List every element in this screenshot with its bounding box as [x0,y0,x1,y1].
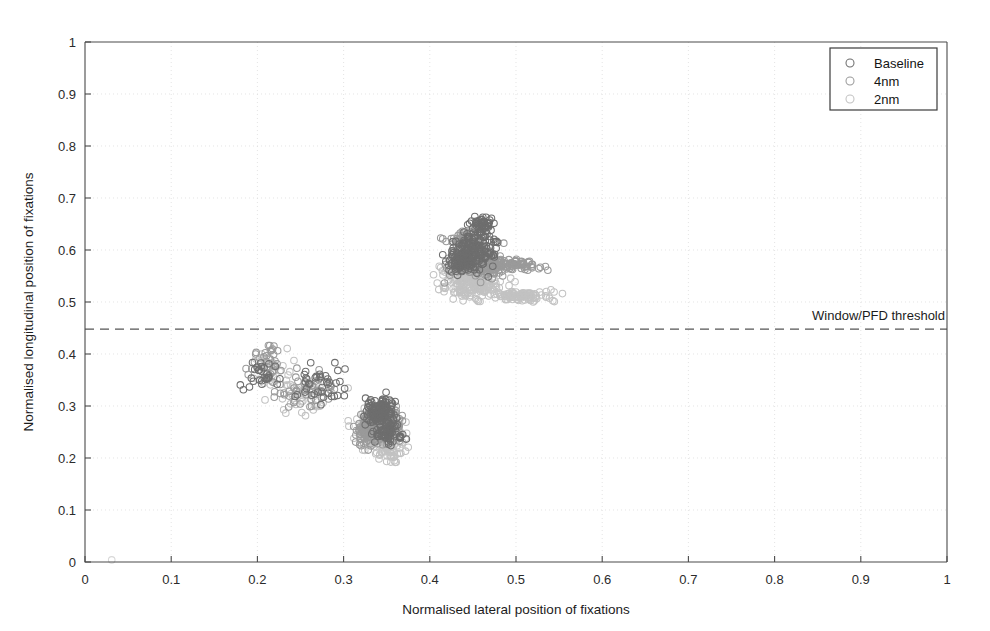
x-tick-label: 0.4 [421,572,439,587]
series-points-2nm [250,253,566,465]
x-tick-label: 1 [943,572,950,587]
data-point [439,251,446,258]
data-point [559,290,566,297]
data-point [307,359,314,366]
scatter-plot-figure: Window/PFD threshold00.10.20.30.40.50.60… [0,0,990,631]
x-tick-label: 0.7 [679,572,697,587]
y-axis-title: Normalised longitudinal position of fixa… [21,172,36,431]
data-point [332,359,339,366]
x-tick-label: 0.3 [335,572,353,587]
y-tick-label: 1 [69,35,76,50]
y-tick-label: 0.6 [58,243,76,258]
x-tick-label: 0.6 [593,572,611,587]
legend-label-4nm: 4nm [874,74,899,89]
data-point [430,271,437,278]
y-tick-label: 0.1 [58,503,76,518]
y-tick-label: 0.9 [58,87,76,102]
data-point [240,386,247,393]
x-tick-label: 0.9 [852,572,870,587]
data-point [335,367,342,374]
x-tick-label: 0.8 [766,572,784,587]
data-point [507,275,514,282]
data-point [464,221,471,228]
data-point [434,280,441,287]
data-point [262,397,269,404]
data-point [284,345,291,352]
legend-label-baseline: Baseline [874,56,924,71]
y-tick-label: 0.5 [58,295,76,310]
data-point [342,366,349,373]
data-point [341,392,348,399]
data-point [450,296,457,303]
y-tick-label: 0.4 [58,347,76,362]
x-tick-label: 0.2 [248,572,266,587]
data-point [337,378,344,385]
x-tick-label: 0 [81,572,88,587]
y-tick-label: 0.2 [58,451,76,466]
y-tick-label: 0 [69,555,76,570]
y-tick-label: 0.8 [58,139,76,154]
data-point [291,357,298,364]
data-point [436,263,443,270]
x-tick-label: 0.5 [507,572,525,587]
x-axis-title: Normalised lateral position of fixations [402,602,630,617]
x-tick-label: 0.1 [162,572,180,587]
legend-label-2nm: 2nm [874,92,899,107]
y-tick-label: 0.3 [58,399,76,414]
data-point [383,389,390,396]
data-point [512,278,519,285]
data-point [237,382,244,389]
window-pfd-threshold-label: Window/PFD threshold [812,308,945,323]
series-points-baseline [237,213,501,449]
data-point [294,365,301,372]
data-point [535,265,542,272]
chart-canvas: Window/PFD threshold00.10.20.30.40.50.60… [0,0,990,631]
y-tick-label: 0.7 [58,191,76,206]
